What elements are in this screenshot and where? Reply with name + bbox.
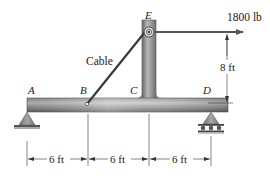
cable-label: Cable — [86, 55, 113, 67]
point-label-c: C — [130, 84, 138, 96]
point-label-d: D — [202, 84, 211, 96]
force-label: 1800 lb — [227, 11, 262, 23]
point-label-b: B — [80, 84, 87, 96]
point-label-e: E — [144, 9, 152, 21]
dimension-vertical: 8 ft — [208, 34, 238, 103]
pulley-e-icon — [144, 27, 154, 37]
dimension-ab-label: 6 ft — [49, 153, 64, 165]
dimension-8ft-label: 8 ft — [220, 61, 235, 73]
dimension-cd-label: 6 ft — [172, 153, 187, 165]
horizontal-beam — [27, 98, 228, 112]
point-label-a: A — [27, 84, 35, 96]
frame-diagram: 1800 lb E A B C D Cable 8 ft — [0, 0, 270, 178]
pin-support-a-icon — [14, 112, 40, 129]
dimension-bc-label: 6 ft — [110, 153, 125, 165]
roller-support-d-icon — [198, 112, 224, 134]
pin-b-icon — [85, 102, 88, 105]
